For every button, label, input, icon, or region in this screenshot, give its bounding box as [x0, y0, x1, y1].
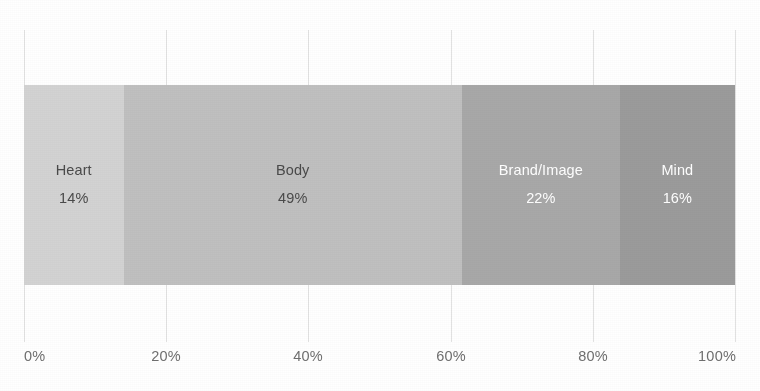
bar-segment-brand-image-label: Brand/Image — [499, 163, 583, 178]
x-axis-tick-100: 100% — [698, 348, 736, 364]
bar-segment-body[interactable]: Body 49% — [124, 85, 462, 285]
bar-segment-brand-image[interactable]: Brand/Image 22% — [462, 85, 620, 285]
bar-segment-mind[interactable]: Mind 16% — [620, 85, 735, 285]
x-axis-tick-40: 40% — [293, 348, 323, 364]
x-axis-tick-20: 20% — [151, 348, 181, 364]
x-axis-tick-0: 0% — [24, 348, 45, 364]
stacked-bar: Heart 14% Body 49% Brand/Image 22% Mind … — [24, 85, 735, 285]
bar-segment-mind-label: Mind — [661, 163, 693, 178]
x-axis-tick-60: 60% — [436, 348, 466, 364]
bar-segment-body-label: Body — [276, 163, 309, 178]
bar-segment-brand-image-value: 22% — [526, 191, 555, 206]
gridline-100 — [735, 30, 736, 342]
x-axis-labels: 0% 20% 40% 60% 80% 100% — [0, 348, 760, 374]
bar-segment-heart[interactable]: Heart 14% — [24, 85, 124, 285]
x-axis-tick-80: 80% — [578, 348, 608, 364]
bar-segment-mind-value: 16% — [663, 191, 692, 206]
stacked-bar-chart: Heart 14% Body 49% Brand/Image 22% Mind … — [0, 0, 760, 391]
bar-segment-body-value: 49% — [278, 191, 307, 206]
bar-segment-heart-value: 14% — [59, 191, 88, 206]
bar-segment-heart-label: Heart — [56, 163, 92, 178]
